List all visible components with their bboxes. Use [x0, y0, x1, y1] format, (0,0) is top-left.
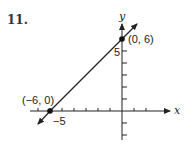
point-b-label: (0, 6): [128, 33, 154, 45]
point-a-label: (−6, 0): [22, 94, 54, 106]
x-axis-label: x: [174, 104, 181, 117]
point-y-intercept: [119, 36, 125, 42]
graph: (−6, 0) (0, 6) −5 5 x y: [0, 0, 191, 145]
point-x-intercept: [47, 108, 53, 114]
x-tick-label: −5: [53, 115, 66, 127]
y-axis-label: y: [118, 10, 126, 23]
y-tick-label: 5: [114, 46, 120, 58]
